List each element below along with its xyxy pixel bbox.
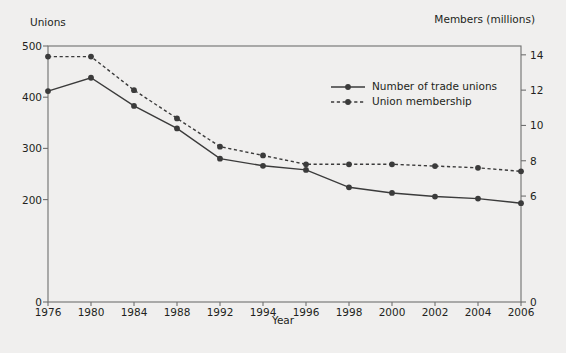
x-axis-tick-label: 2000 [379,306,406,318]
x-axis-tick-label: 1992 [207,306,234,318]
x-axis-tick-label: 1994 [250,306,277,318]
x-axis-tick-label: 2002 [422,306,449,318]
y-axis-left-tick-label: 400 [8,91,42,103]
chart-figure: Unions Members (millions) Year 020030040… [0,0,566,353]
y-axis-right-tick-label: 10 [530,119,560,131]
x-axis-tick-label: 1976 [35,306,62,318]
x-axis-tick-label: 1996 [293,306,320,318]
x-axis-tick-label: 1998 [336,306,363,318]
legend-item-label: Union membership [372,95,472,107]
y-axis-left-tick-label: 200 [8,194,42,206]
x-axis-tick-label: 1984 [121,306,148,318]
y-axis-right-tick-label: 12 [530,84,560,96]
data-series [45,54,524,206]
x-axis-tick-label: 1988 [164,306,191,318]
y-axis-left-tick-label: 300 [8,142,42,154]
legend-lines [331,84,365,105]
y-axis-right-tick-label: 6 [530,190,560,202]
x-axis-tick-label: 1980 [78,306,105,318]
y-axis-right-tick-label: 8 [530,155,560,167]
chart-canvas [0,0,566,353]
y-axis-left-tick-label: 500 [8,40,42,52]
y-axis-right-tick-label: 14 [530,49,560,61]
legend-item-label: Number of trade unions [372,80,497,92]
x-axis-tick-label: 2006 [508,306,535,318]
x-axis-tick-label: 2004 [465,306,492,318]
